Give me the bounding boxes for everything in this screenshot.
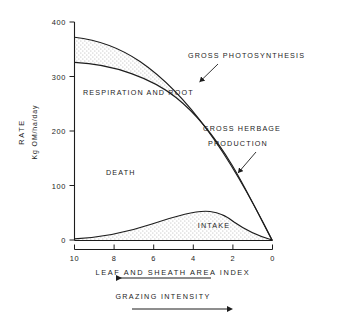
x-tick-label-6: 6 [151,254,156,263]
y-tick-label-200: 200 [52,127,66,136]
y-tick-label-400: 400 [52,18,66,27]
y-tick-label-0: 0 [61,236,66,245]
x-tick-label-10: 10 [70,254,79,263]
annotation-gross-herbage-production: GROSS HERBAGE PRODUCTION [203,124,281,173]
annotation-label-gross-photosynthesis: GROSS PHOTOSYNTHESIS [188,51,305,60]
region-label-intake: INTAKE [198,221,230,230]
annotation-label-gross-herbage-line1: GROSS HERBAGE [203,124,281,133]
annotation-gross-photosynthesis: GROSS PHOTOSYNTHESIS [188,51,305,82]
y-tick-label-100: 100 [52,182,66,191]
x-tick-label-0: 0 [270,254,275,263]
x-tick-labels: 10 8 6 4 2 0 [70,254,275,263]
grazing-intensity-label: GRAZING INTENSITY [115,292,210,301]
y-axis-title: RATE [17,119,26,145]
annotation-leader-gross-herbage-production [238,152,256,173]
chart-figure: 400 300 200 100 0 10 8 6 4 2 0 LEAF AND … [0,0,338,323]
region-label-respiration-and-root: RESPIRATION AND ROOT [83,88,194,97]
y-axis-ticks [70,22,75,240]
annotation-leader-gross-photosynthesis [200,64,219,82]
x-tick-label-2: 2 [231,254,236,263]
region-label-death: DEATH [106,168,136,177]
grazing-intensity-group: GRAZING INTENSITY [115,278,228,309]
y-tick-labels: 400 300 200 100 0 [52,18,66,245]
x-axis-title: LEAF AND SHEATH AREA INDEX [96,268,251,277]
x-axis-ticks [75,245,273,250]
y-tick-label-300: 300 [52,73,66,82]
y-axis-units: Kg OM/ha/day [31,105,39,160]
rate-vs-leaf-area-index-chart: 400 300 200 100 0 10 8 6 4 2 0 LEAF AND … [0,0,338,323]
x-tick-label-4: 4 [191,254,196,263]
annotation-label-gross-herbage-line2: PRODUCTION [208,139,268,148]
x-tick-label-8: 8 [112,254,117,263]
